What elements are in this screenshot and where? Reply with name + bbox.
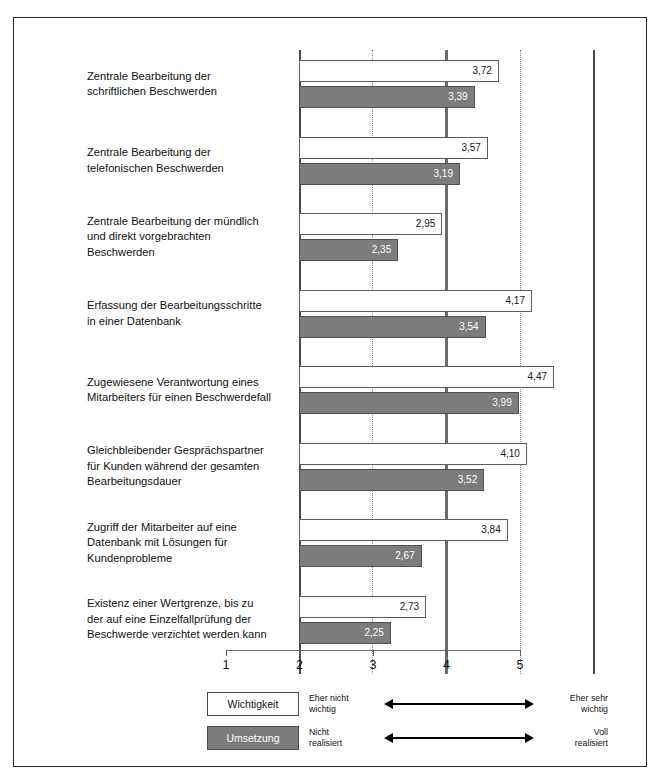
category-label-line: und direkt vorgebrachten <box>87 229 287 245</box>
category-label-line: Zugewiesene Verantwortung eines <box>87 375 287 391</box>
category-label: Zugewiesene Verantwortung einesMitarbeit… <box>87 375 287 406</box>
bar-value-label: 3,84 <box>481 525 500 535</box>
bar-wichtigkeit: 2,95 <box>299 213 442 235</box>
category-label: Erfassung der Bearbeitungsschrittein ein… <box>87 298 287 329</box>
category-label-line: Beschwerde verzichtet werden kann <box>87 627 287 643</box>
bar-umsetzung: 3,39 <box>299 86 475 108</box>
category-label-line: Zugriff der Mitarbeiter auf eine <box>87 520 287 536</box>
bar-value-label: 4,47 <box>528 372 547 382</box>
bar-wichtigkeit: 3,84 <box>299 519 508 541</box>
category-label: Existenz einer Wertgrenze, bis zuder auf… <box>87 596 287 643</box>
bar-umsetzung: 3,52 <box>299 469 484 491</box>
bar-wichtigkeit: 4,10 <box>299 443 527 465</box>
legend-swatch-wichtigkeit: Wichtigkeit <box>207 692 299 716</box>
category-label-line: Zentrale Bearbeitung der <box>87 145 287 161</box>
bar-value-label: 2,73 <box>400 602 419 612</box>
bar-wichtigkeit: 3,57 <box>299 137 488 159</box>
category-label-line: in einer Datenbank <box>87 314 287 330</box>
chart-legend: Wichtigkeit Eher nicht wichtig Eher sehr… <box>196 690 616 762</box>
legend-right-line1: Voll <box>546 727 608 738</box>
category-label-line: schriftlichen Beschwerden <box>87 84 287 100</box>
category-label-line: Existenz einer Wertgrenze, bis zu <box>87 596 287 612</box>
legend-right-line2: wichtig <box>546 704 608 715</box>
category-label-line: Mitarbeiters für einen Beschwerdefall <box>87 390 287 406</box>
x-axis-tick <box>520 650 521 656</box>
x-axis-tick <box>300 650 301 656</box>
x-axis-tick <box>226 650 227 656</box>
legend-right-label-umsetzung: Voll realisiert <box>546 727 608 748</box>
legend-right-line1: Eher sehr <box>546 693 608 704</box>
category-label-line: Gleichbleibender Gesprächspartner <box>87 443 287 459</box>
category-label: Zentrale Bearbeitung derschriftlichen Be… <box>87 69 287 100</box>
legend-left-line2: realisiert <box>309 738 369 749</box>
bar-group: 3,573,19 <box>299 137 594 185</box>
bar-value-label: 2,35 <box>372 245 391 255</box>
category-label-line: Datenbank mit Lösungen für <box>87 535 287 551</box>
legend-arrow-wichtigkeit <box>384 703 534 705</box>
legend-left-line1: Nicht <box>309 727 369 738</box>
x-axis-tick-label: 2 <box>296 658 303 672</box>
x-axis-tick-label: 3 <box>370 658 377 672</box>
bar-umsetzung: 3,54 <box>299 316 486 338</box>
bar-wichtigkeit: 3,72 <box>299 60 499 82</box>
legend-row-wichtigkeit: Wichtigkeit Eher nicht wichtig Eher sehr… <box>196 692 616 718</box>
category-label-line: Beschwerden <box>87 245 287 261</box>
x-axis-tick <box>373 650 374 656</box>
legend-row-umsetzung: Umsetzung Nicht realisiert Voll realisie… <box>196 726 616 752</box>
bar-group: 4,173,54 <box>299 290 594 338</box>
legend-right-line2: realisiert <box>546 738 608 749</box>
bar-wichtigkeit: 2,73 <box>299 596 426 618</box>
legend-right-label-wichtigkeit: Eher sehr wichtig <box>546 693 608 714</box>
legend-left-line1: Eher nicht <box>309 693 369 704</box>
bar-group: 2,732,25 <box>299 596 594 644</box>
category-label: Zentrale Bearbeitung der mündlichund dir… <box>87 214 287 261</box>
bar-group: 3,723,39 <box>299 60 594 108</box>
x-axis-tick-label: 4 <box>443 658 450 672</box>
bar-value-label: 4,17 <box>506 296 525 306</box>
bar-value-label: 3,54 <box>459 322 478 332</box>
legend-left-line2: wichtig <box>309 704 369 715</box>
bar-chart: 3,723,393,573,192,952,354,173,544,473,99… <box>87 42 627 672</box>
bar-umsetzung: 2,67 <box>299 545 422 567</box>
category-label-line: Zentrale Bearbeitung der <box>87 69 287 85</box>
bar-wichtigkeit: 4,47 <box>299 366 554 388</box>
bar-group: 4,473,99 <box>299 366 594 414</box>
bar-value-label: 4,10 <box>500 449 519 459</box>
category-label-line: Kundenprobleme <box>87 551 287 567</box>
category-label: Zentrale Bearbeitung dertelefonischen Be… <box>87 145 287 176</box>
bar-value-label: 2,95 <box>416 219 435 229</box>
category-label-line: Erfassung der Bearbeitungsschritte <box>87 298 287 314</box>
category-label-line: telefonischen Beschwerden <box>87 161 287 177</box>
bar-umsetzung: 2,25 <box>299 622 391 644</box>
plot-area: 3,723,393,573,192,952,354,173,544,473,99… <box>299 50 594 674</box>
bar-value-label: 3,39 <box>448 92 467 102</box>
bar-value-label: 2,67 <box>395 551 414 561</box>
bar-group: 4,103,52 <box>299 443 594 491</box>
bar-value-label: 3,52 <box>458 475 477 485</box>
category-label-line: Zentrale Bearbeitung der mündlich <box>87 214 287 230</box>
legend-arrow-umsetzung <box>384 737 534 739</box>
bar-umsetzung: 3,19 <box>299 163 460 185</box>
bar-group: 3,842,67 <box>299 519 594 567</box>
bar-value-label: 3,99 <box>492 398 511 408</box>
bar-wichtigkeit: 4,17 <box>299 290 532 312</box>
category-label-line: für Kunden während der gesamten <box>87 459 287 475</box>
category-label-line: der auf eine Einzelfallprüfung der <box>87 612 287 628</box>
legend-left-label-umsetzung: Nicht realisiert <box>309 727 369 748</box>
legend-swatch-umsetzung: Umsetzung <box>207 726 299 750</box>
x-axis-tick <box>447 650 448 656</box>
bar-value-label: 3,57 <box>461 143 480 153</box>
category-label: Zugriff der Mitarbeiter auf eineDatenban… <box>87 520 287 567</box>
bar-value-label: 2,25 <box>364 628 383 638</box>
category-label: Gleichbleibender Gesprächspartnerfür Kun… <box>87 443 287 490</box>
legend-left-label-wichtigkeit: Eher nicht wichtig <box>309 693 369 714</box>
bar-group: 2,952,35 <box>299 213 594 261</box>
bar-value-label: 3,19 <box>433 169 452 179</box>
x-axis: 12345 <box>226 650 523 684</box>
chart-frame: 3,723,393,573,192,952,354,173,544,473,99… <box>13 17 647 767</box>
bar-value-label: 3,72 <box>472 66 491 76</box>
category-label-line: Bearbeitungsdauer <box>87 474 287 490</box>
x-axis-tick-label: 5 <box>517 658 524 672</box>
bar-umsetzung: 3,99 <box>299 392 519 414</box>
x-axis-tick-label: 1 <box>223 658 230 672</box>
